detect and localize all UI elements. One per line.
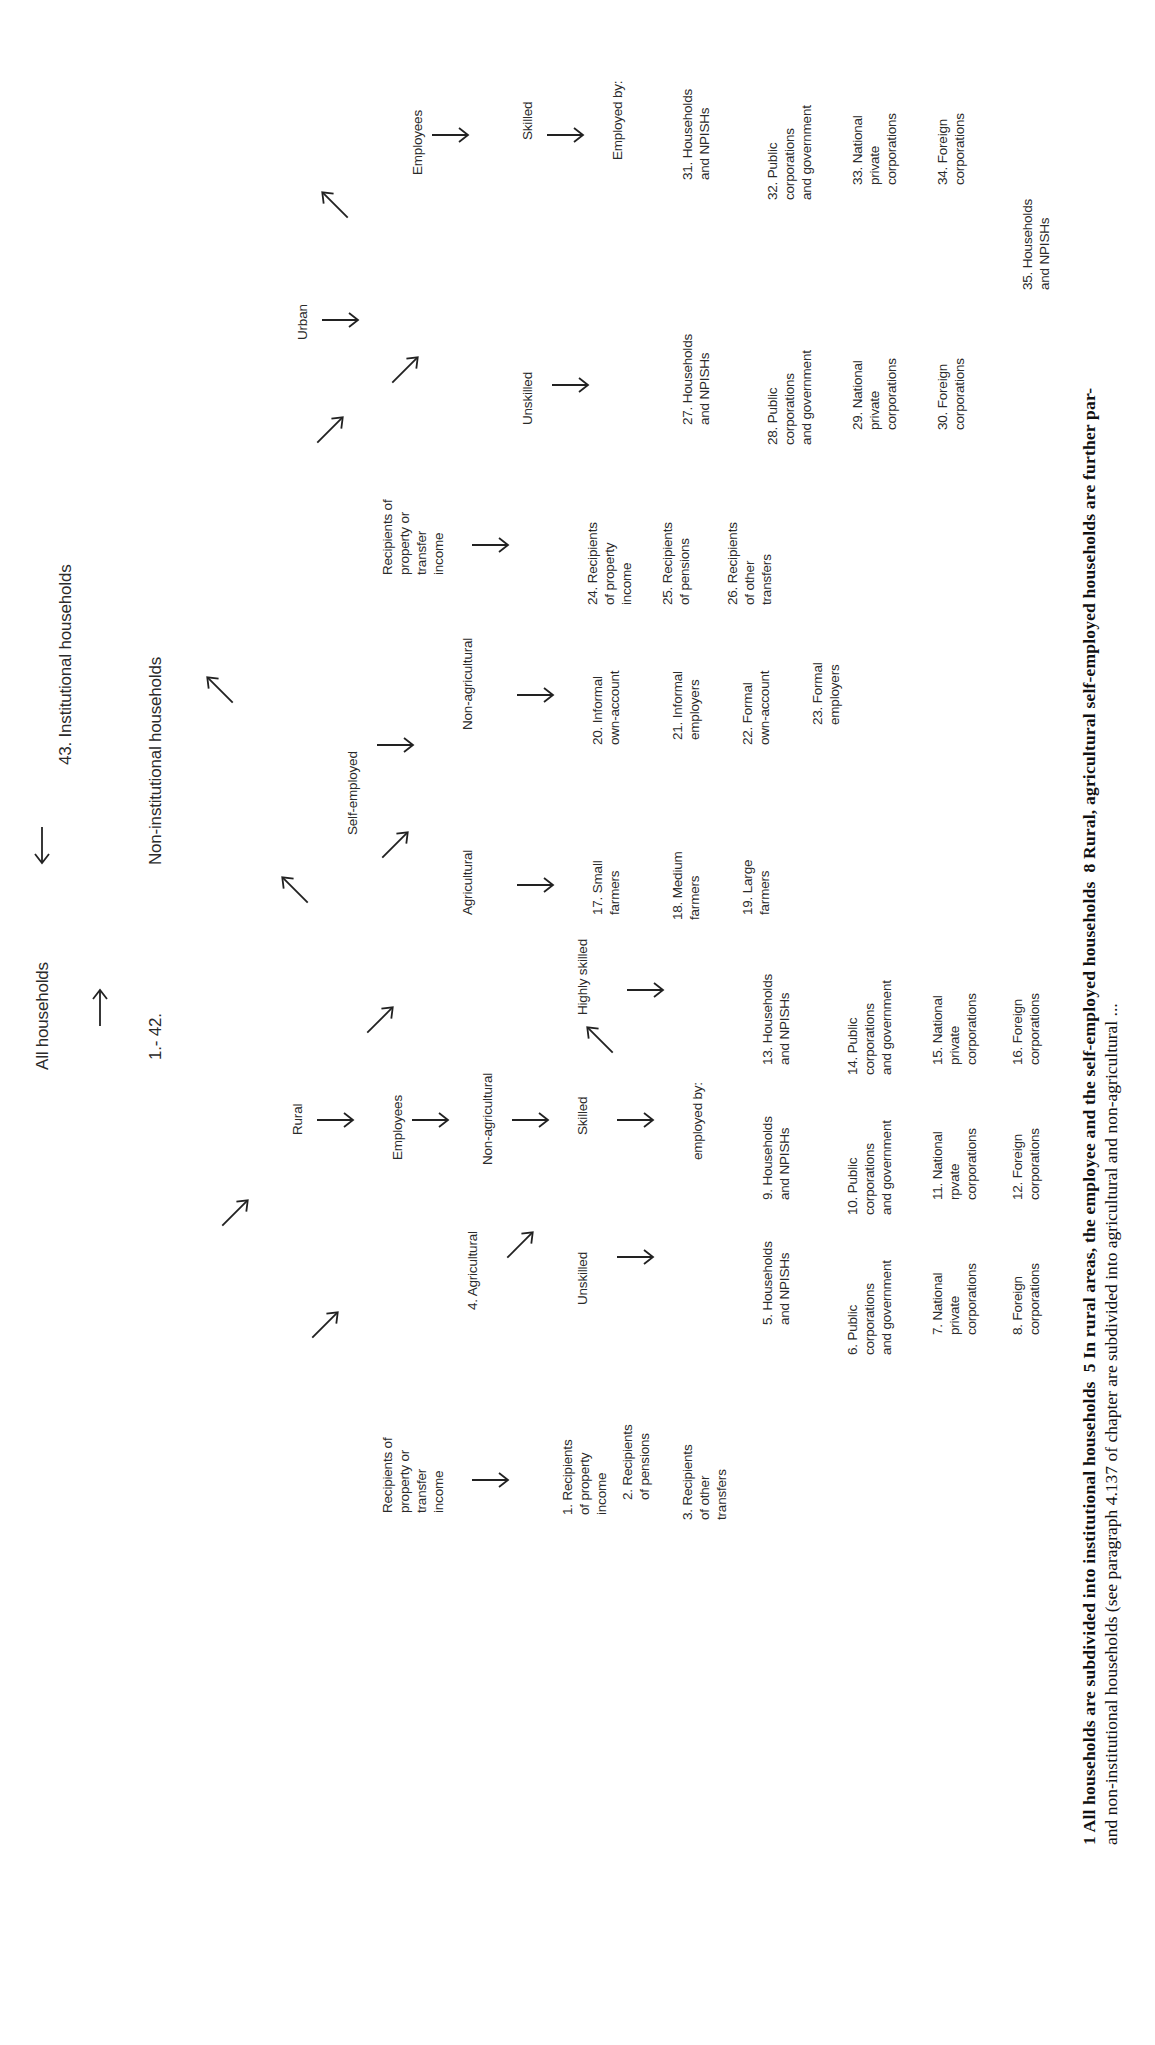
urban-right-columns bbox=[0, 0, 1155, 560]
arrow-right-icon bbox=[525, 865, 545, 905]
list-item-3: 3. Recipients of other transfers bbox=[680, 1445, 731, 1520]
node-rural-non-agricultural: Non-agricultural bbox=[480, 1073, 497, 1165]
arrow-down-right-icon bbox=[225, 1193, 245, 1233]
node-range-1-42: 1.- 42. bbox=[145, 1013, 166, 1060]
node-institutional-households: 43. Institutional households bbox=[55, 565, 76, 765]
node-rural-employees: Employees bbox=[390, 1095, 407, 1160]
node-rural-unskilled: Unskilled bbox=[575, 1252, 592, 1305]
arrow-down-right-icon bbox=[385, 825, 405, 865]
list-item-6: 6. Public corporations and government bbox=[845, 1260, 896, 1355]
arrow-right-icon bbox=[525, 675, 545, 715]
node-rural-employed-by: employed by: bbox=[690, 1082, 707, 1160]
arrow-right-icon bbox=[625, 1100, 645, 1140]
arrow-right-icon bbox=[420, 1100, 440, 1140]
list-item-2: 2. Recipients of pensions bbox=[620, 1425, 654, 1500]
node-rural-agricultural-4: 4. Agricultural bbox=[465, 1231, 482, 1310]
node-rural: Rural bbox=[290, 1104, 307, 1135]
arrow-down-right-icon bbox=[510, 1225, 530, 1265]
list-item-14: 14. Public corporations and government bbox=[845, 980, 896, 1075]
arrow-up-right-icon bbox=[210, 670, 230, 710]
arrow-right-icon bbox=[625, 1237, 645, 1277]
arrow-left-icon bbox=[32, 825, 52, 865]
node-rural-se-non-agricultural: Non-agricultural bbox=[460, 638, 477, 730]
arrow-right-icon bbox=[520, 1100, 540, 1140]
node-rural-highly-skilled: Highly skilled bbox=[575, 939, 592, 1015]
list-item-10: 10. Public corporations and government bbox=[845, 1120, 896, 1215]
list-item-17: 17. Small farmers bbox=[590, 861, 624, 915]
node-rural-recipients-header: Recipients of property or transfer incom… bbox=[380, 1438, 448, 1513]
caption-note-5: 5 In rural areas, the employee and the s… bbox=[1079, 882, 1099, 1373]
list-item-13: 13. Households and NPISHs bbox=[760, 974, 794, 1065]
node-non-institutional-households: Non-institutional households bbox=[145, 657, 166, 865]
node-all-households: All households bbox=[32, 962, 53, 1070]
list-item-12: 12. Foreign corporations bbox=[1010, 1128, 1044, 1200]
node-rural-se-agricultural: Agricultural bbox=[460, 850, 477, 915]
list-item-19: 19. Large farmers bbox=[740, 860, 774, 915]
list-item-16: 16. Foreign corporations bbox=[1010, 993, 1044, 1065]
arrow-right-icon bbox=[90, 988, 110, 1028]
arrow-up-right-icon bbox=[285, 870, 305, 910]
list-item-18: 18. Medium farmers bbox=[670, 851, 704, 920]
arrow-down-right-icon bbox=[370, 1000, 390, 1040]
list-item-8: 8. Foreign corporations bbox=[1010, 1263, 1044, 1335]
list-item-15: 15. National private corporations bbox=[930, 993, 981, 1065]
arrow-down-right-icon bbox=[315, 1305, 335, 1345]
node-rural-skilled: Skilled bbox=[575, 1097, 592, 1135]
list-item-1: 1. Recipients of property income bbox=[560, 1440, 611, 1515]
list-item-5: 5. Households and NPISHs bbox=[760, 1241, 794, 1325]
list-item-7: 7. National private corporations bbox=[930, 1263, 981, 1335]
arrow-up-right-icon bbox=[590, 1020, 610, 1060]
node-rural-self-employed: Self-employed bbox=[345, 751, 362, 835]
list-item-21: 21. Informal employers bbox=[670, 671, 704, 740]
arrow-right-icon bbox=[480, 1460, 500, 1500]
arrow-right-icon bbox=[385, 725, 405, 765]
arrow-right-icon bbox=[325, 1100, 345, 1140]
list-item-11: 11. National rpvate corporations bbox=[930, 1128, 981, 1200]
arrow-right-icon bbox=[635, 970, 655, 1010]
list-item-9: 9. Households and NPISHs bbox=[760, 1116, 794, 1200]
caption-note-1: 1 All households are subdivided into ins… bbox=[1079, 1381, 1099, 1845]
list-item-20: 20. Informal own-account bbox=[590, 671, 624, 745]
list-item-23: 23. Formal employers bbox=[810, 662, 844, 725]
list-item-22: 22. Formal own-account bbox=[740, 671, 774, 745]
